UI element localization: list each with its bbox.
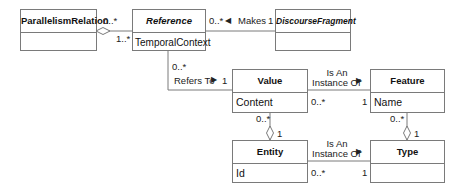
class-discourse-fragment[interactable]: DiscourseFragment bbox=[275, 9, 351, 51]
class-attribute: Content bbox=[233, 93, 307, 112]
association-label-makes: Makes bbox=[238, 15, 266, 26]
class-attribute bbox=[276, 33, 350, 52]
uml-class-diagram: ParallelismRelation Reference TemporalCo… bbox=[0, 0, 463, 191]
direction-left-icon: ◀ bbox=[225, 15, 231, 26]
multiplicity-label: 1 bbox=[277, 128, 282, 139]
aggregation-diamond-icon bbox=[267, 126, 274, 140]
class-entity[interactable]: Entity Id bbox=[232, 140, 308, 183]
class-name: ParallelismRelation bbox=[21, 10, 96, 33]
class-attribute bbox=[21, 33, 96, 52]
multiplicity-label: 0..* bbox=[311, 167, 325, 178]
multiplicity-label: 1 bbox=[362, 167, 367, 178]
class-attribute bbox=[371, 164, 444, 183]
multiplicity-label: 1 bbox=[222, 75, 227, 86]
association-label-instance-of: Instance Of bbox=[312, 148, 361, 159]
association-label-refers-to: Refers To bbox=[174, 75, 214, 86]
class-reference[interactable]: Reference TemporalContext bbox=[132, 9, 206, 51]
multiplicity-label: 0..* bbox=[103, 15, 117, 26]
class-name: Reference bbox=[133, 10, 205, 33]
class-feature[interactable]: Feature Name bbox=[370, 69, 445, 113]
multiplicity-label: 1 bbox=[268, 15, 273, 26]
multiplicity-label: 1 bbox=[362, 96, 367, 107]
class-name: Type bbox=[371, 141, 444, 164]
multiplicity-label: 0..* bbox=[390, 113, 404, 124]
multiplicity-label: 0..* bbox=[256, 113, 270, 124]
multiplicity-label: 0..* bbox=[172, 61, 186, 72]
class-name: Entity bbox=[233, 141, 307, 164]
class-attribute: Id bbox=[233, 164, 307, 183]
multiplicity-label: 1..* bbox=[116, 33, 130, 44]
class-value[interactable]: Value Content bbox=[232, 69, 308, 113]
multiplicity-label: 0..* bbox=[311, 96, 325, 107]
direction-right-icon: ▶ bbox=[356, 75, 362, 86]
class-name: DiscourseFragment bbox=[276, 10, 350, 33]
class-parallelism-relation[interactable]: ParallelismRelation bbox=[20, 9, 97, 51]
class-attribute: TemporalContext bbox=[133, 33, 205, 52]
class-type[interactable]: Type bbox=[370, 140, 445, 183]
association-label-instance-of: Instance Of bbox=[312, 77, 361, 88]
class-name: Value bbox=[233, 70, 307, 93]
class-name: Feature bbox=[371, 70, 444, 93]
multiplicity-label: 0..* bbox=[209, 15, 223, 26]
class-attribute: Name bbox=[371, 93, 444, 112]
direction-right-icon: ▶ bbox=[211, 74, 217, 85]
aggregation-diamond-icon bbox=[96, 28, 110, 35]
aggregation-diamond-icon bbox=[404, 126, 411, 140]
multiplicity-label: 1 bbox=[414, 128, 419, 139]
direction-right-icon: ▶ bbox=[356, 146, 362, 157]
